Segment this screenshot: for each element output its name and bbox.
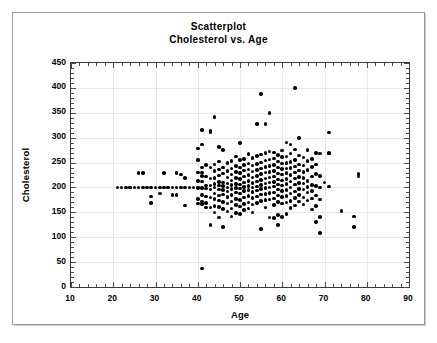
axis-tick	[71, 73, 74, 74]
data-point	[238, 205, 242, 209]
axis-tick	[122, 284, 123, 287]
data-point	[247, 162, 251, 166]
axis-tick	[156, 282, 157, 287]
axis-tick	[198, 63, 199, 68]
axis-tick	[71, 192, 74, 193]
data-point	[217, 168, 221, 172]
gridline-horizontal	[71, 163, 409, 164]
y-axis-tick-label: 150	[40, 207, 66, 216]
axis-tick	[406, 118, 409, 119]
data-point	[255, 122, 259, 126]
x-axis-tick-label: 60	[266, 293, 296, 303]
data-point	[234, 197, 238, 201]
data-point	[247, 188, 251, 192]
axis-tick	[406, 257, 409, 258]
data-point	[285, 194, 289, 198]
data-point	[166, 186, 170, 190]
axis-tick	[71, 163, 76, 164]
data-point	[158, 192, 162, 196]
data-point	[230, 187, 234, 191]
axis-tick	[367, 63, 368, 68]
data-point	[297, 169, 301, 173]
axis-tick	[316, 63, 317, 66]
x-axis-tick-label: 40	[182, 293, 212, 303]
axis-tick	[71, 88, 76, 89]
data-point	[149, 201, 153, 205]
axis-tick	[404, 88, 409, 89]
axis-tick	[406, 123, 409, 124]
data-point	[289, 166, 293, 170]
axis-tick	[181, 63, 182, 66]
data-point	[124, 186, 128, 190]
axis-tick	[406, 192, 409, 193]
data-point	[259, 172, 263, 176]
data-point	[259, 161, 263, 165]
data-point	[230, 215, 234, 219]
data-point	[276, 183, 280, 187]
axis-tick	[406, 272, 409, 273]
data-point	[285, 171, 289, 175]
data-point	[247, 173, 251, 177]
axis-tick	[406, 168, 409, 169]
data-point	[276, 166, 280, 170]
axis-tick	[71, 153, 74, 154]
axis-tick	[404, 138, 409, 139]
axis-tick	[206, 284, 207, 287]
data-point	[272, 169, 276, 173]
axis-tick	[392, 63, 393, 66]
y-axis-tick-label: 400	[40, 82, 66, 91]
data-point	[297, 163, 301, 167]
data-point	[213, 115, 217, 119]
axis-tick	[406, 68, 409, 69]
axis-tick	[333, 63, 334, 66]
data-point	[259, 187, 263, 191]
data-point	[251, 203, 255, 207]
axis-tick	[282, 282, 283, 287]
axis-tick	[189, 63, 190, 66]
data-point	[230, 167, 234, 171]
data-point	[171, 193, 175, 197]
data-point	[297, 193, 301, 197]
gridline-horizontal	[71, 138, 409, 139]
data-point	[209, 206, 213, 210]
data-point	[251, 170, 255, 174]
axis-tick	[71, 158, 74, 159]
data-point	[297, 200, 301, 204]
data-point	[259, 167, 263, 171]
axis-tick	[406, 232, 409, 233]
data-point	[352, 225, 356, 229]
x-axis-title: Age	[70, 309, 410, 320]
data-point	[255, 168, 259, 172]
data-point	[158, 186, 162, 190]
data-point	[268, 150, 272, 154]
data-point	[276, 178, 280, 182]
axis-tick	[71, 277, 74, 278]
data-point	[238, 158, 242, 162]
axis-tick	[375, 284, 376, 287]
data-point	[179, 173, 183, 177]
axis-tick	[341, 63, 342, 66]
data-point	[272, 175, 276, 179]
data-point	[293, 148, 297, 152]
data-point	[242, 181, 246, 185]
axis-tick	[316, 284, 317, 287]
data-point	[302, 196, 306, 200]
data-point	[272, 151, 276, 155]
data-point	[293, 158, 297, 162]
data-point	[200, 174, 204, 178]
axis-tick	[406, 282, 409, 283]
data-point	[293, 183, 297, 187]
data-point	[141, 171, 145, 175]
data-point	[280, 179, 284, 183]
data-point	[234, 191, 238, 195]
data-point	[116, 186, 120, 190]
axis-tick	[189, 284, 190, 287]
axis-tick	[71, 83, 74, 84]
axis-tick	[71, 212, 76, 213]
y-axis-tick-label: 450	[40, 58, 66, 67]
axis-tick	[325, 63, 326, 68]
data-point	[276, 188, 280, 192]
data-point	[251, 176, 255, 180]
axis-tick	[406, 78, 409, 79]
data-point	[268, 158, 272, 162]
